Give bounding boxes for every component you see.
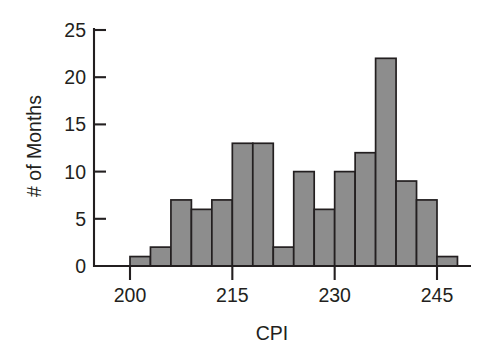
histogram-bar xyxy=(335,172,355,266)
x-tick-label: 215 xyxy=(216,284,249,306)
histogram-bar xyxy=(253,143,273,266)
histogram-bar xyxy=(130,257,150,266)
x-axis-title: CPI xyxy=(256,322,289,344)
y-tick-label: 25 xyxy=(64,19,86,41)
histogram-bar xyxy=(212,200,232,266)
histogram-bar xyxy=(273,247,293,266)
y-tick-label: 10 xyxy=(64,161,86,183)
histogram-bar xyxy=(376,58,396,266)
y-tick-label: 5 xyxy=(75,208,86,230)
y-tick-label: 0 xyxy=(75,255,86,277)
x-tick-label: 200 xyxy=(114,284,147,306)
histogram-bar xyxy=(294,172,314,266)
histogram-bar xyxy=(171,200,191,266)
histogram-bar xyxy=(355,153,375,266)
x-tick-label: 245 xyxy=(421,284,454,306)
y-axis-title: # of Months xyxy=(23,95,45,197)
histogram-bar xyxy=(232,143,252,266)
histogram-bar xyxy=(437,257,457,266)
y-tick-label: 15 xyxy=(64,113,86,135)
histogram-bar xyxy=(191,209,211,266)
histogram-bar xyxy=(150,247,170,266)
x-tick-label: 230 xyxy=(318,284,351,306)
histogram-bar xyxy=(314,209,334,266)
histogram-bar xyxy=(417,200,437,266)
y-tick-label: 20 xyxy=(64,66,86,88)
histogram-plot-area: 0510152025 200215230245 CPI # of Months xyxy=(0,0,499,355)
histogram-bar xyxy=(396,181,416,266)
histogram-chart: 0510152025 200215230245 CPI # of Months xyxy=(0,0,499,355)
